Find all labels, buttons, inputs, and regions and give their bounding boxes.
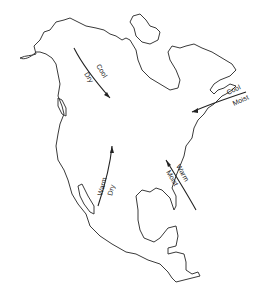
- svg-text:Dry: Dry: [82, 71, 95, 85]
- svg-text:Dry: Dry: [106, 183, 117, 196]
- cool-moist-arrow: Cool Moist: [192, 83, 250, 113]
- baja-outline: [78, 184, 94, 214]
- north-america-map: Cool Dry Cool Moist Warm Dry Warm Moist: [0, 0, 260, 296]
- svg-text:Cool: Cool: [95, 63, 109, 79]
- cool-dry-arrow: Cool Dry: [74, 48, 110, 98]
- continent-outline: [20, 18, 236, 282]
- arctic-island-outline: [130, 14, 160, 44]
- warm-moist-arrow: Warm Moist: [165, 160, 196, 210]
- warm-dry-arrow: Warm Dry: [96, 146, 117, 206]
